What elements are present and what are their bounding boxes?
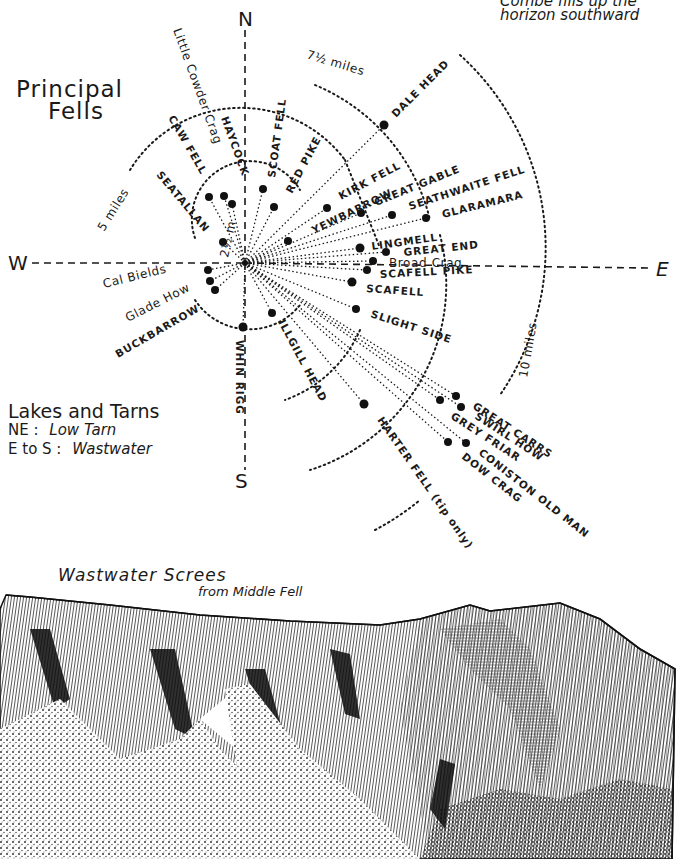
fell-label: SCOAT FELL — [265, 98, 288, 179]
fell-label: Cal Bields — [101, 262, 168, 291]
lakes-legend: Lakes and Tarns NE : Low Tarn E to S : W… — [8, 402, 160, 459]
lakes-ne-value: Low Tarn — [49, 421, 116, 439]
wastwater-screes-illustration — [0, 589, 685, 859]
principal-fells-diagram: N S W E 2½ m 5 miles 7½ miles 10 miles — [0, 0, 685, 560]
fell-label: HARTER FELL (tip only) — [375, 414, 476, 551]
fell-label: RED PIKE — [283, 134, 323, 195]
fell-label: WHIN RIGG — [234, 340, 246, 415]
ring-label-7-5: 7½ miles — [305, 47, 366, 78]
fell-label: SEATALLAN — [154, 169, 212, 235]
fell-label: CAW FELL — [166, 113, 210, 176]
illustration-title: Wastwater Screes — [58, 565, 302, 585]
lakes-es-row: E to S : Wastwater — [8, 440, 160, 459]
ring-label-5: 5 miles — [95, 186, 132, 234]
lakes-ne-row: NE : Low Tarn — [8, 421, 160, 440]
compass-s: S — [235, 469, 248, 493]
fell-label: CONISTON OLD MAN — [477, 446, 592, 540]
lakes-es-value: Wastwater — [72, 440, 152, 458]
compass-e: E — [656, 257, 669, 281]
lakes-heading: Lakes and Tarns — [8, 402, 160, 421]
compass-w: W — [8, 251, 28, 275]
fell-label: SCAFELL — [366, 282, 425, 298]
guidebook-page: Combé fills up the horizon southward Pri… — [0, 0, 685, 859]
ring-label-10: 10 miles — [516, 321, 539, 378]
fell-label: HAYCOCK — [219, 115, 252, 178]
compass-n: N — [238, 7, 253, 31]
lakes-ne-label: NE : — [8, 421, 39, 439]
lakes-es-label: E to S : — [8, 440, 61, 458]
fell-labels: Little Cowder Crag HAYCOCK CAW FELL SCOA… — [101, 26, 592, 551]
fell-label: DALE HEAD — [389, 57, 451, 119]
